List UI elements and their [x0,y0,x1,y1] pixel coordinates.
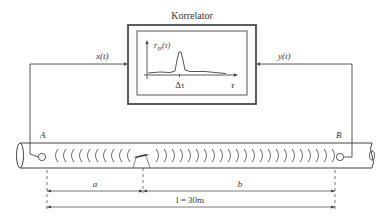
pipe-right-end [371,143,374,168]
leak-icon [133,154,150,168]
sensor-b-label: B [336,130,342,140]
signal-y-label: y(t) [277,51,291,61]
plot-x-arrow-icon [234,73,238,76]
sound-waves-left [56,149,131,162]
distance-b-label: b [238,179,243,189]
distance-a-label: a [93,179,98,189]
pipe-left-end [17,143,24,168]
leak-correlation-diagram: Korrelator rxy(τ) Δτ τ x(t) y(t) [0,0,382,222]
sensor-a-label: A [39,130,46,140]
plot-y-arrow-icon [145,40,148,44]
tau-axis-label: τ [231,80,235,90]
plot-y-label: rxy(τ) [154,41,171,51]
signal-x-label: x(t) [95,51,109,61]
correlator-title: Korrelator [171,10,213,21]
correlator-block: Korrelator rxy(τ) Δτ τ [128,10,256,104]
sensor-a-icon [38,153,45,160]
sound-waves-right [156,149,335,162]
sensor-b-icon [336,153,343,160]
total-length-label: l = 30m [176,195,204,205]
pipe: A B [17,130,375,168]
peak-delay-label: Δτ [175,80,185,90]
correlation-curve [148,52,226,74]
